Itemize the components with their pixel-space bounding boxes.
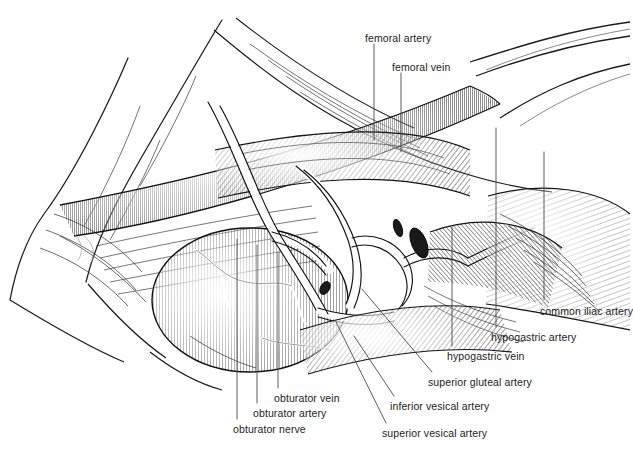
label-superior-gluteal-artery: superior gluteal artery	[428, 377, 532, 388]
label-hypogastric-vein: hypogastric vein	[447, 351, 525, 362]
label-obturator-nerve: obturator nerve	[233, 424, 306, 435]
label-femoral-vein: femoral vein	[392, 62, 450, 73]
label-hypogastric-artery: hypogastric artery	[491, 332, 576, 343]
label-femoral-artery: femoral artery	[365, 33, 431, 44]
label-obturator-artery: obturator artery	[253, 408, 326, 419]
label-superior-vesical-artery: superior vesical artery	[382, 428, 487, 439]
label-obturator-vein: obturator vein	[274, 393, 340, 404]
label-common-iliac-artery: common iliac artery	[540, 306, 633, 317]
label-inferior-vesical-artery: inferior vesical artery	[390, 401, 489, 412]
